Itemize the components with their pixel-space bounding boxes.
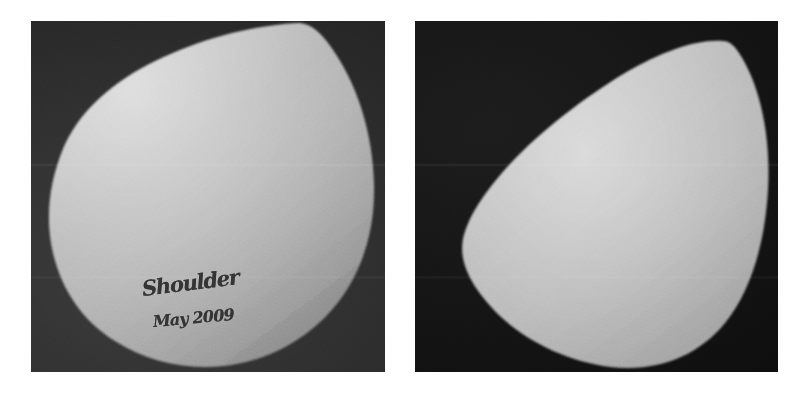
figure-container: Shoulder May 2009 xyxy=(0,0,805,395)
right-photograph[interactable] xyxy=(415,21,778,372)
left-specimen-shape xyxy=(31,21,385,372)
left-photograph[interactable]: Shoulder May 2009 xyxy=(31,21,385,372)
right-specimen-shape xyxy=(415,21,778,372)
